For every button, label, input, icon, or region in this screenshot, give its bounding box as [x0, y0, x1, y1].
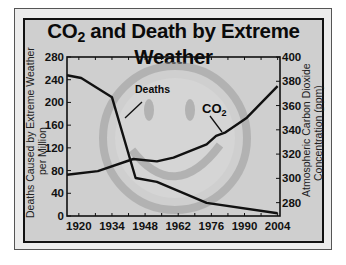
x-tick-label: 1920 [66, 220, 92, 232]
right-axis-title-line2: Concentration (ppm) [312, 85, 324, 181]
left-tick-label: 200 [45, 96, 64, 108]
left-axis-title-line1: Deaths Caused by Extreme Weather [24, 47, 36, 218]
x-tick-label: 1948 [132, 220, 158, 232]
chart-svg: 0408012016020024028028030032034036038040… [0, 0, 346, 265]
deaths-label: Deaths [135, 83, 170, 95]
right-tick-label: 300 [282, 172, 301, 184]
right-axis-title-line1: Atmospheric Carbon Dioxide [300, 63, 312, 197]
left-tick-label: 40 [51, 187, 64, 199]
left-tick-label: 0 [58, 210, 64, 222]
left-axis-title-line2: per Million [36, 127, 48, 175]
x-tick-label: 2004 [265, 220, 291, 232]
right-tick-label: 380 [282, 75, 301, 87]
x-tick-label: 1934 [99, 220, 125, 232]
left-tick-label: 240 [45, 74, 64, 86]
right-tick-label: 320 [282, 148, 301, 160]
left-tick-label: 280 [45, 51, 64, 63]
x-tick-label: 1962 [165, 220, 191, 232]
right-tick-label: 360 [282, 100, 301, 112]
right-tick-label: 280 [282, 197, 301, 209]
x-tick-label: 1990 [232, 220, 258, 232]
right-tick-label: 400 [282, 51, 301, 63]
right-tick-label: 340 [282, 124, 301, 136]
x-tick-label: 1976 [199, 220, 225, 232]
left-tick-label: 80 [51, 165, 64, 177]
